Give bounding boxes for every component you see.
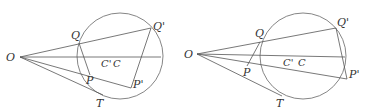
left-label-t: T: [96, 97, 105, 110]
right-label-p-prime: P': [348, 68, 359, 81]
left-label-q: Q: [71, 29, 80, 42]
right-label-t: T: [276, 97, 285, 110]
right-secant-op: [197, 54, 347, 79]
left-secant-oq: [20, 28, 151, 57]
right-secant-oq: [197, 28, 336, 54]
right-figure: O Q Q' C' C P P' T: [184, 13, 359, 110]
left-label-c: C: [113, 58, 121, 69]
right-label-q-prime: Q': [337, 16, 349, 29]
right-label-q: Q: [255, 27, 264, 40]
right-label-c-prime: C': [283, 57, 293, 68]
right-axis-line: [197, 54, 345, 57]
right-label-o: O: [184, 48, 193, 61]
right-tangent-ot: [197, 54, 282, 96]
left-label-p: P: [85, 74, 94, 87]
right-label-p: P: [242, 66, 251, 79]
left-label-p-prime: P': [132, 78, 143, 91]
geometry-diagram: O Q Q' C' C P P' T O Q Q' C' C P P' T: [0, 0, 368, 111]
left-figure: O Q Q' C' C P P' T: [6, 13, 165, 110]
right-line-qp: [247, 42, 260, 66]
left-label-o: O: [6, 51, 15, 64]
left-label-q-prime: Q': [153, 20, 165, 33]
left-chord-qp: [79, 43, 90, 75]
left-label-c-prime: C': [101, 58, 111, 69]
right-line-qpprime: [336, 28, 347, 79]
right-label-c: C: [298, 57, 306, 68]
